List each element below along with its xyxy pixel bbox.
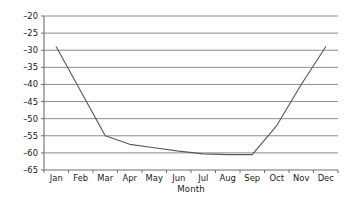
x-tick-label: Jun: [172, 174, 185, 182]
temperature-line-series: [56, 47, 326, 155]
x-axis-label: Month: [44, 184, 338, 194]
plot-area: [0, 0, 351, 200]
chart-figure: Temperature (deg C) –20–25–30–35–40–45–5…: [0, 0, 351, 200]
x-tick-label: Feb: [73, 174, 88, 182]
x-tick-label: Jul: [198, 174, 208, 182]
x-tick-label: Oct: [270, 174, 284, 182]
x-tick-label: Jan: [50, 174, 63, 182]
x-tick-label: May: [146, 174, 163, 182]
x-tick-label: Apr: [123, 174, 138, 182]
x-tick-label: Mar: [97, 174, 113, 182]
x-tick-label: Aug: [220, 174, 236, 182]
gridlines: [44, 16, 338, 153]
x-tick-label: Nov: [293, 174, 309, 182]
x-tick-label: Dec: [318, 174, 334, 182]
x-tick-label: Sep: [244, 174, 260, 182]
